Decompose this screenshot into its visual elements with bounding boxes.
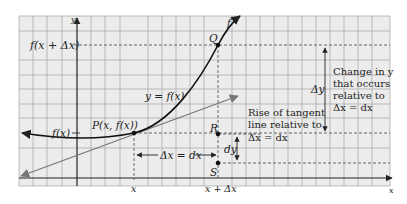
delta-y-label: Δy [310, 83, 326, 95]
x-axis-label: x [389, 186, 394, 195]
label-point-P: P(x, f(x)) [91, 119, 138, 131]
label-point-Q: Q [209, 32, 218, 45]
point-P [132, 131, 137, 136]
label-f-x-plus-dx: f(x + Δx) [29, 39, 79, 52]
dy-label: dy [224, 143, 238, 155]
curve-label: y = f(x) [144, 90, 184, 102]
label-point-S: S [210, 166, 217, 178]
differential-diagram: y x f(x + Δx) f(x) y = f(x) f P(x, f(x))… [0, 0, 407, 204]
label-point-R: R [209, 122, 218, 134]
label-f-x: f(x) [51, 127, 70, 139]
dx-label: Δx = dx [159, 149, 202, 161]
point-S [216, 161, 221, 166]
tick-label-x: x [131, 183, 137, 194]
y-axis-label: y [70, 15, 76, 24]
tick-label-x-plus-dx: x + Δx [205, 183, 237, 194]
